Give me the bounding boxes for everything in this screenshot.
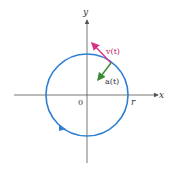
radius-label: r — [131, 97, 136, 107]
y-axis-label: y — [82, 7, 89, 17]
acceleration-label: a(t) — [105, 77, 119, 86]
origin-label: 0 — [78, 98, 83, 107]
x-axis-label: x — [159, 90, 164, 100]
velocity-label: v(t) — [105, 47, 120, 56]
circular-motion-diagram: y x 0 r v(t) a(t) — [0, 0, 174, 175]
